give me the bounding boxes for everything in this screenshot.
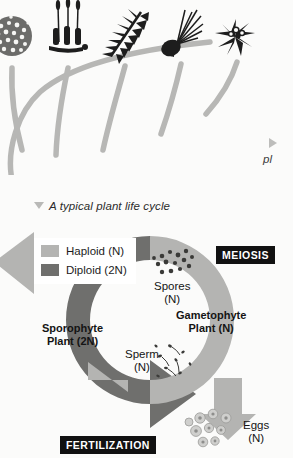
legend-swatch-diploid	[41, 264, 59, 276]
label-gametophyte-line2: Plant (N)	[176, 322, 246, 335]
legend-swatch-haploid	[41, 245, 59, 257]
phylogeny-diagram	[0, 0, 293, 175]
figure-caption: A typical plant life cycle	[34, 200, 170, 212]
figure-page: A typical plant life cycle pl	[0, 0, 293, 458]
phylogeny-branches	[10, 42, 237, 175]
branch-gymnosperm	[161, 64, 181, 134]
legend-label-diploid: Diploid (2N)	[66, 264, 127, 276]
triangle-down-marker-icon	[34, 202, 44, 209]
label-sperm: Sperm (N)	[125, 348, 159, 374]
label-gametophyte: Gametophyte Plant (N)	[176, 309, 246, 334]
branch-angiosperm	[206, 62, 237, 114]
edge-callout: pl	[259, 138, 293, 165]
moss-sporophyte-icon	[49, 0, 88, 53]
label-eggs: Eggs (N)	[243, 419, 269, 445]
legend-label-haploid: Haploid (N)	[66, 245, 124, 257]
figure-caption-text: A typical plant life cycle	[49, 200, 170, 212]
flowering-plant-icon	[215, 19, 255, 56]
label-spores: Spores (N)	[154, 280, 190, 306]
label-gametophyte-line1: Gametophyte	[176, 309, 246, 322]
label-sporophyte-line1: Sporophyte	[42, 322, 103, 335]
algae-colony-icon	[0, 15, 32, 56]
label-eggs-line1: Eggs	[243, 419, 269, 432]
legend-item-haploid: Haploid (N)	[41, 243, 127, 259]
label-sporophyte: Sporophyte Plant (2N)	[42, 322, 103, 347]
label-fertilization: FERTILIZATION	[60, 436, 156, 454]
triangle-right-marker-icon	[269, 138, 277, 148]
egg-cluster-icon	[185, 409, 231, 447]
label-sporophyte-line2: Plant (2N)	[42, 335, 103, 348]
label-sperm-line2: (N)	[125, 361, 159, 374]
conifer-cone-icon	[159, 10, 203, 59]
label-meiosis: MEIOSIS	[216, 246, 275, 264]
label-spores-line2: (N)	[154, 293, 190, 306]
edge-callout-text: pl	[263, 153, 293, 165]
label-sperm-line1: Sperm	[125, 348, 159, 361]
legend-item-diploid: Diploid (2N)	[41, 262, 127, 278]
label-spores-line1: Spores	[154, 280, 190, 293]
ploidy-legend: Haploid (N) Diploid (2N)	[34, 238, 136, 284]
label-eggs-line2: (N)	[243, 432, 269, 445]
branch-fern	[103, 66, 125, 150]
